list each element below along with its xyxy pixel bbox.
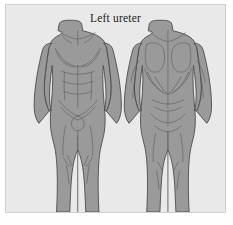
body-diagram-canvas	[6, 5, 225, 212]
pain-map-figure: Left ureter	[0, 0, 233, 225]
diagram-panel: Left ureter	[5, 4, 226, 213]
posterior-body-figure[interactable]	[124, 20, 211, 212]
anterior-body-figure[interactable]	[34, 20, 121, 212]
